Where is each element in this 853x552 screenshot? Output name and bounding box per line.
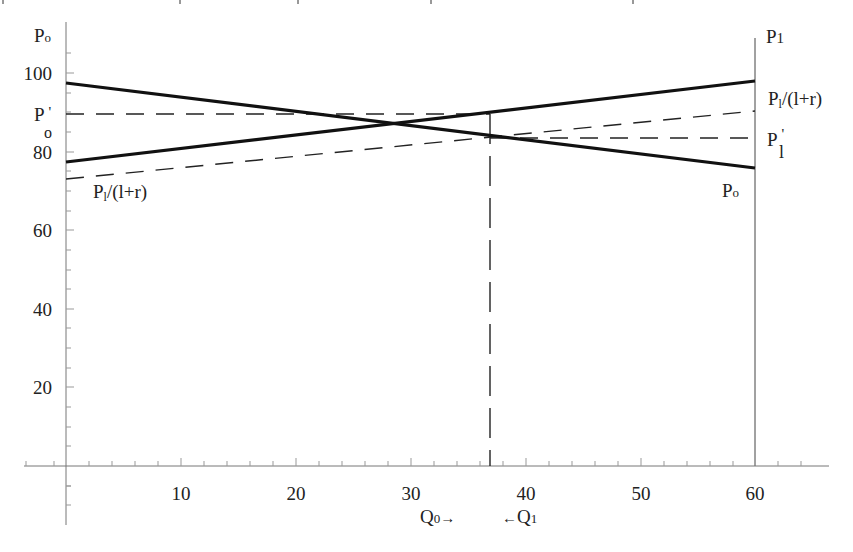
y-ticks [66,53,74,505]
label-q1: ←Q1 [502,506,537,527]
y-tick-40: 40 [33,299,52,320]
y-tick-80: 80 [33,142,52,163]
x-tick-20: 20 [287,483,306,504]
clipped-caption-fragments [3,0,633,4]
label-p1-prime-sub: l [779,142,784,162]
label-p0-top: Po [34,25,51,46]
axes [24,22,829,525]
label-p0-right: Po [722,180,739,201]
x-tick-10: 10 [172,483,191,504]
x-tick-60: 60 [746,483,765,504]
label-p0-prime: P' [34,104,52,125]
intertemporal-allocation-chart: 100 80 60 40 20 10 20 30 40 50 60 Po P' … [0,0,853,552]
label-p1-over-left: Pl/(l+r) [93,181,147,204]
x-tick-40: 40 [517,483,536,504]
label-p1-over-right: Pl/(l+r) [768,88,822,111]
x-tick-30: 30 [402,483,421,504]
series [66,81,755,466]
label-p0-prime-sub: o [44,124,52,141]
x-tick-labels: 10 20 30 40 50 60 [172,483,765,504]
y-tick-100: 100 [24,63,53,84]
p0-line [66,83,755,168]
label-q0: Q0→ [420,506,455,527]
quantity-labels: Q0→ ←Q1 [420,506,537,527]
p1-line [66,81,755,162]
x-tick-50: 50 [632,483,651,504]
label-p1-top: P1 [766,26,784,47]
y-tick-20: 20 [33,377,52,398]
y-tick-60: 60 [33,220,52,241]
x-ticks [26,458,801,486]
